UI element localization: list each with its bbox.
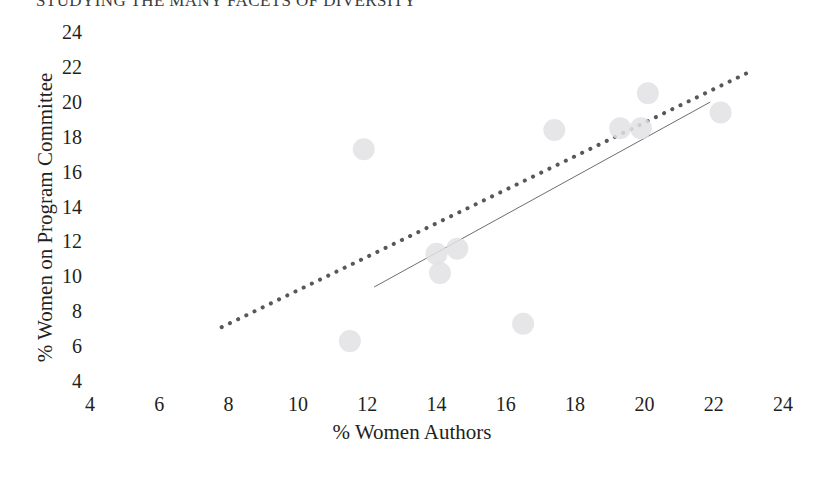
data-point [512, 313, 534, 335]
data-point [710, 102, 732, 124]
x-tick-label-10: 10 [281, 393, 315, 416]
y-tick-label-20: 20 [48, 91, 82, 114]
data-point [353, 138, 375, 160]
x-tick-label-4: 4 [73, 393, 107, 416]
y-tick-label-12: 12 [48, 230, 82, 253]
data-point [637, 82, 659, 104]
data-point [543, 119, 565, 141]
x-tick-label-14: 14 [420, 393, 454, 416]
x-tick-label-18: 18 [558, 393, 592, 416]
data-point [339, 330, 361, 352]
data-point [446, 238, 468, 260]
y-tick-label-16: 16 [48, 161, 82, 184]
x-tick-label-24: 24 [766, 393, 800, 416]
x-tick-label-8: 8 [212, 393, 246, 416]
y-tick-label-6: 6 [48, 335, 82, 358]
x-axis-title: % Women Authors [0, 420, 824, 445]
x-tick-label-20: 20 [627, 393, 661, 416]
dotted-trendline [222, 72, 749, 327]
y-tick-label-4: 4 [48, 370, 82, 393]
x-tick-label-16: 16 [489, 393, 523, 416]
y-tick-label-24: 24 [48, 21, 82, 44]
x-tick-label-12: 12 [350, 393, 384, 416]
y-tick-label-10: 10 [48, 265, 82, 288]
y-tick-label-14: 14 [48, 196, 82, 219]
data-point [429, 262, 451, 284]
solid-trendline [374, 102, 710, 287]
y-tick-label-22: 22 [48, 56, 82, 79]
data-point [609, 117, 631, 139]
x-tick-label-6: 6 [142, 393, 176, 416]
scatter-chart: % Women on Program Committee % Women Aut… [0, 0, 824, 477]
y-tick-label-18: 18 [48, 126, 82, 149]
y-tick-label-8: 8 [48, 300, 82, 323]
x-tick-label-22: 22 [697, 393, 731, 416]
data-point [630, 117, 652, 139]
data-point [426, 243, 448, 265]
